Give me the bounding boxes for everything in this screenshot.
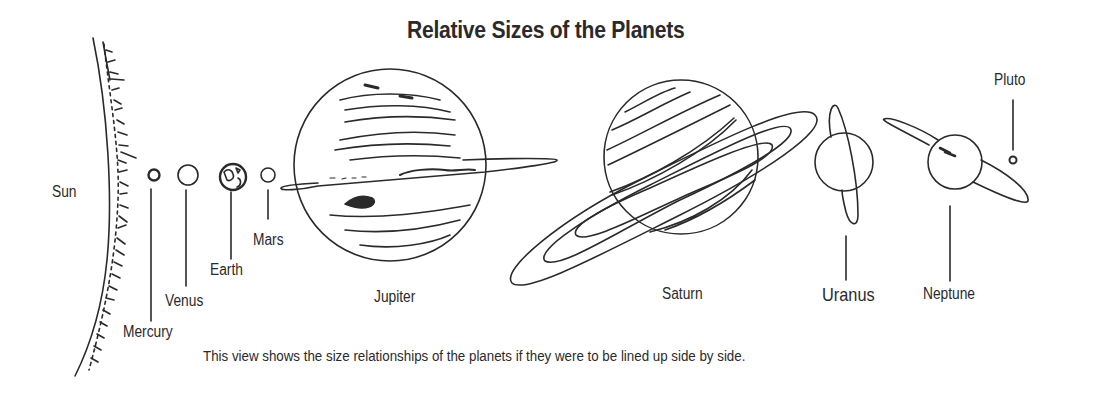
uranus-icon	[815, 105, 873, 280]
label-mars: Mars	[253, 231, 284, 249]
label-sun: Sun	[52, 183, 76, 201]
mars-icon	[261, 168, 275, 219]
label-pluto: Pluto	[994, 71, 1025, 89]
label-saturn: Saturn	[662, 285, 703, 303]
venus-icon	[178, 165, 198, 286]
saturn-icon	[510, 80, 817, 285]
neptune-icon	[884, 119, 1029, 281]
label-mercury: Mercury	[123, 323, 173, 341]
mercury-icon	[149, 170, 160, 322]
pluto-icon	[1010, 100, 1017, 164]
diagram-caption: This view shows the size relationships o…	[203, 347, 745, 365]
label-earth: Earth	[210, 261, 243, 279]
label-uranus: Uranus	[822, 284, 875, 306]
earth-icon	[220, 164, 246, 259]
label-jupiter: Jupiter	[374, 288, 415, 306]
jupiter-icon	[281, 69, 557, 261]
label-neptune: Neptune	[923, 285, 975, 303]
label-venus: Venus	[165, 292, 203, 310]
